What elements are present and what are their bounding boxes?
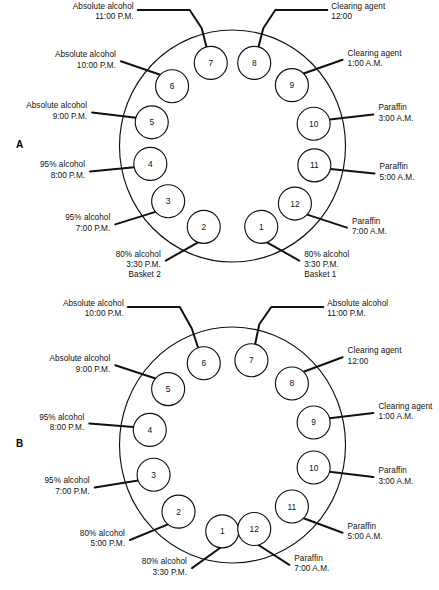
reagent-time: 3:30 P.M. <box>153 568 187 577</box>
reagent-name: Absolute alcohol <box>49 354 110 363</box>
reagent-time: 9:00 P.M. <box>76 365 110 374</box>
reagent-time: 5:00 P.M. <box>91 539 125 548</box>
station-label: 80% alcohol5:00 P.M. <box>80 529 125 548</box>
reagent-time: 7:00 P.M. <box>55 487 89 496</box>
station-10[interactable]: 10Paraffin3:00 A.M. <box>297 103 413 140</box>
reagent-time: 3:00 A.M. <box>378 114 413 123</box>
station-label: 80% alcohol3:30 P.M.Basket 2 <box>116 250 162 280</box>
station-number: 4 <box>147 425 152 435</box>
station-number: 3 <box>166 196 171 206</box>
station-number: 12 <box>290 199 300 209</box>
reagent-time: 3:00 A.M. <box>378 477 413 486</box>
station-4[interactable]: 495% alcohol8:00 P.M. <box>40 147 167 180</box>
station-9[interactable]: 9Clearing agent1:00 A.M. <box>275 49 402 102</box>
reagent-name: Absolute alcohol <box>73 2 134 11</box>
station-label: Absolute alcohol10:00 P.M. <box>55 50 116 69</box>
station-number: 8 <box>290 378 295 388</box>
station-2[interactable]: 280% alcohol3:30 P.M.Basket 2 <box>116 210 221 279</box>
reagent-name: Paraffin <box>352 217 381 226</box>
reagent-time: 11:00 P.M. <box>327 309 365 318</box>
station-label: Absolute alcohol9:00 P.M. <box>49 354 110 373</box>
station-1[interactable]: 180% alcohol3:30 P.M.Basket 1 <box>245 210 350 279</box>
station-9[interactable]: 9Clearing agent1:00 A.M. <box>297 402 433 439</box>
reagent-time: 3:30 P.M. <box>126 260 160 269</box>
reagent-name: 95% alcohol <box>39 413 84 422</box>
station-label: Absolute alcohol9:00 P.M. <box>26 101 87 120</box>
reagent-name: 80% alcohol <box>142 557 187 566</box>
panel-a: A180% alcohol3:30 P.M.Basket 1280% alcoh… <box>16 2 415 279</box>
station-label: Clearing agent12:00 <box>331 2 386 21</box>
station-number: 6 <box>201 358 206 368</box>
station-label: Absolute alcohol11:00 P.M. <box>73 2 134 21</box>
station-number: 2 <box>176 507 181 517</box>
basket-name: Basket 2 <box>129 270 162 279</box>
station-number: 9 <box>290 80 295 90</box>
reagent-name: 80% alcohol <box>116 250 161 259</box>
reagent-time: 8:00 P.M. <box>51 171 85 180</box>
station-label: 95% alcohol7:00 P.M. <box>65 213 110 232</box>
reagent-time: 7:00 P.M. <box>76 224 110 233</box>
reagent-name: Clearing agent <box>348 49 403 58</box>
reagent-name: 95% alcohol <box>65 213 110 222</box>
station-2[interactable]: 280% alcohol5:00 P.M. <box>80 495 195 548</box>
station-11[interactable]: 11Paraffin5:00 A.M. <box>298 149 415 182</box>
reagent-name: Clearing agent <box>331 2 386 11</box>
station-number: 10 <box>309 119 319 129</box>
station-12[interactable]: 12Paraffin7:00 A.M. <box>278 187 387 236</box>
station-8[interactable]: 8Clearing agent12:00 <box>275 346 402 400</box>
reagent-name: Absolute alcohol <box>327 299 388 308</box>
station-number: 1 <box>220 526 225 536</box>
station-3[interactable]: 395% alcohol7:00 P.M. <box>65 185 185 233</box>
station-label: 95% alcohol8:00 P.M. <box>40 160 85 179</box>
station-number: 1 <box>259 222 264 232</box>
panel-letter-b: B <box>16 438 23 449</box>
station-number: 10 <box>309 463 319 473</box>
reagent-time: 5:00 A.M. <box>380 173 415 182</box>
reagent-name: Paraffin <box>378 103 407 112</box>
station-number: 8 <box>252 58 257 68</box>
station-label: 80% alcohol3:30 P.M. <box>142 557 187 576</box>
station-11[interactable]: 11Paraffin5:00 A.M. <box>275 490 382 541</box>
reagent-name: Absolute alcohol <box>63 299 124 308</box>
station-number: 5 <box>166 384 171 394</box>
reagent-time: 12:00 <box>331 12 352 21</box>
station-3[interactable]: 395% alcohol7:00 P.M. <box>45 458 171 496</box>
station-number: 3 <box>151 470 156 480</box>
station-label: Paraffin7:00 A.M. <box>294 554 329 573</box>
reagent-time: 12:00 <box>348 357 369 366</box>
station-6[interactable]: 6Absolute alcohol10:00 P.M. <box>55 50 189 102</box>
station-1[interactable]: 180% alcohol3:30 P.M. <box>142 515 239 577</box>
drum-outline <box>120 30 346 262</box>
station-label: 80% alcohol3:30 P.M.Basket 1 <box>304 250 349 280</box>
station-label: Paraffin7:00 A.M. <box>352 217 387 236</box>
station-label: Clearing agent1:00 A.M. <box>348 49 403 68</box>
reagent-name: Clearing agent <box>378 402 433 411</box>
reagent-time: 7:00 A.M. <box>294 564 329 573</box>
reagent-name: Absolute alcohol <box>55 50 116 59</box>
station-number: 9 <box>311 417 316 427</box>
station-label: 95% alcohol8:00 P.M. <box>39 413 84 432</box>
reagent-name: Paraffin <box>294 554 323 563</box>
reagent-name: 95% alcohol <box>45 476 90 485</box>
station-10[interactable]: 10Paraffin3:00 A.M. <box>297 451 413 485</box>
station-label: Paraffin3:00 A.M. <box>378 103 413 122</box>
reagent-time: 10:00 P.M. <box>85 309 124 318</box>
station-label: Clearing agent12:00 <box>348 346 403 365</box>
station-4[interactable]: 495% alcohol8:00 P.M. <box>39 413 166 447</box>
station-label: Paraffin5:00 A.M. <box>380 162 415 181</box>
station-number: 11 <box>288 502 297 512</box>
reagent-time: 1:00 A.M. <box>378 412 413 421</box>
reagent-time: 7:00 A.M. <box>352 227 387 236</box>
panel-b: B180% alcohol3:30 P.M.280% alcohol5:00 P… <box>16 299 433 577</box>
station-label: Paraffin3:00 A.M. <box>378 466 413 485</box>
station-label: 95% alcohol7:00 P.M. <box>45 476 90 495</box>
station-5[interactable]: 5Absolute alcohol9:00 P.M. <box>26 101 168 138</box>
station-number: 5 <box>149 117 154 127</box>
station-label: Absolute alcohol10:00 P.M. <box>63 299 124 318</box>
reagent-time: 9:00 P.M. <box>53 112 87 121</box>
station-5[interactable]: 5Absolute alcohol9:00 P.M. <box>49 354 184 405</box>
reagent-time: 1:00 A.M. <box>348 59 383 68</box>
reagent-name: Paraffin <box>378 466 407 475</box>
station-number: 6 <box>170 81 175 91</box>
reagent-time: 5:00 A.M. <box>348 532 383 541</box>
